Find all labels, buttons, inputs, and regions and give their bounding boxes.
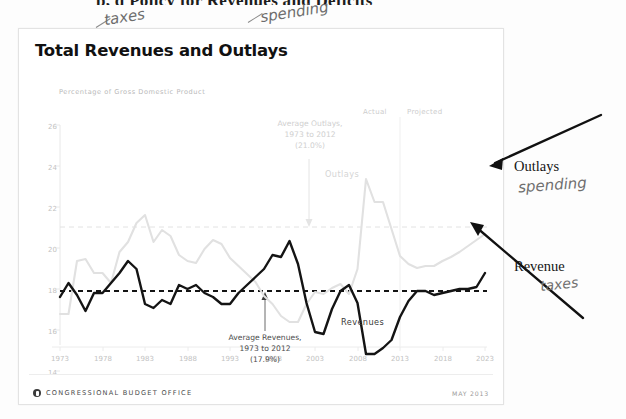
footer-divider (29, 374, 493, 375)
avg-revenues-line1: Average Revenues, (206, 332, 324, 343)
handwriting-leader-spending (248, 13, 263, 23)
annotation-revenue-printed: Revenue (514, 258, 565, 275)
cut-off-heading: p, d Policy for Revenues and Deficits (96, 0, 556, 5)
x-tick-1978: 1978 (87, 355, 119, 363)
avg-outlays-line2: 1973 to 2012 (251, 129, 369, 140)
x-tick-2018: 2018 (427, 355, 459, 363)
footer-date: MAY 2013 (452, 390, 489, 397)
x-tick-2008: 2008 (342, 355, 374, 363)
x-tick-1973: 1973 (44, 355, 76, 363)
annotation-taxes-handwritten: taxes (539, 274, 579, 294)
avg-outlays-line1: Average Outlays, (251, 118, 369, 129)
annotation-outlays-printed: Outlays (514, 158, 559, 175)
cbo-figure-card: Total Revenues and Outlays Percentage of… (18, 28, 504, 405)
cbo-seal-icon (33, 389, 41, 397)
actual-label: Actual (363, 108, 387, 116)
series-label-revenues: Revenues (341, 317, 384, 327)
chart-plot-area: 26 24 22 20 18 16 14 0 (19, 29, 503, 404)
handwriting-leader-taxes (96, 18, 111, 28)
x-tick-2023: 2023 (469, 355, 501, 363)
avg-outlays-pointer-head (306, 219, 313, 227)
avg-revenues-annotation: Average Revenues, 1973 to 2012 (17.9%) (206, 332, 324, 365)
x-tick-2013: 2013 (384, 355, 416, 363)
footer-agency-block: CONGRESSIONAL BUDGET OFFICE (33, 389, 192, 397)
avg-revenues-line2: 1973 to 2012 (206, 343, 324, 354)
avg-outlays-annotation: Average Outlays, 1973 to 2012 (21.0%) (251, 118, 369, 151)
series-label-outlays: Outlays (325, 169, 359, 179)
projected-label: Projected (407, 108, 442, 116)
annotation-spending-handwritten: spending (517, 174, 587, 197)
avg-outlays-line3: (21.0%) (251, 140, 369, 151)
avg-revenues-line3: (17.9%) (206, 354, 324, 365)
footer-agency-label: CONGRESSIONAL BUDGET OFFICE (46, 389, 192, 397)
screenshot-root: p, d Policy for Revenues and Deficits ta… (0, 0, 626, 419)
x-tick-1988: 1988 (172, 355, 204, 363)
x-tick-1983: 1983 (129, 355, 161, 363)
outlays-line (60, 179, 485, 322)
y-axis-ticks (56, 125, 60, 371)
